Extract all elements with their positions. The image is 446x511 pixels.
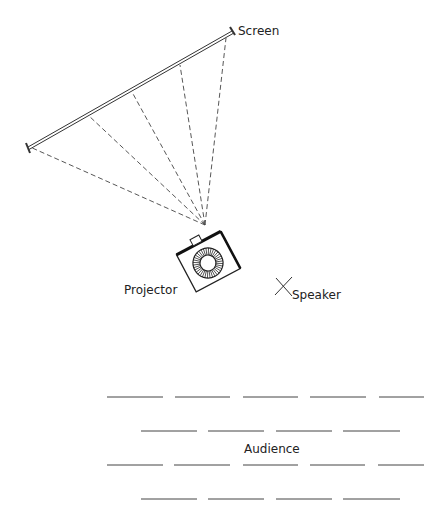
projection-ray bbox=[88, 115, 205, 225]
projection-ray bbox=[132, 92, 205, 225]
projection-ray bbox=[30, 147, 205, 225]
projector-label: Projector bbox=[124, 283, 177, 297]
audience-label: Audience bbox=[244, 442, 300, 456]
projection-ray bbox=[205, 38, 226, 225]
screen bbox=[26, 27, 235, 153]
speaker-label: Speaker bbox=[292, 288, 341, 302]
speaker-icon bbox=[275, 277, 292, 296]
diagram-canvas bbox=[0, 0, 446, 511]
projection-ray bbox=[180, 65, 205, 225]
projection-rays bbox=[30, 38, 226, 225]
projector-icon bbox=[173, 225, 240, 292]
screen-label: Screen bbox=[238, 24, 279, 38]
